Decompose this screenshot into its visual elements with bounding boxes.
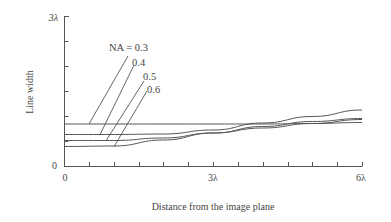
annotation-na-0-4: 0.4 bbox=[132, 57, 146, 68]
y-tick-label-zero: 0 bbox=[52, 160, 57, 171]
y-ticks bbox=[65, 42, 69, 142]
y-axis-title: Line width bbox=[24, 70, 35, 114]
x-tick-label-mid: 3λ bbox=[208, 172, 218, 183]
curves bbox=[64, 110, 362, 147]
curve-na-0-6 bbox=[64, 119, 362, 147]
annotation-na-0-6: 0.6 bbox=[147, 84, 160, 95]
leader-lines bbox=[89, 56, 147, 147]
line-width-chart: 3λ 0 0 3λ 6λ Distance from the image pla… bbox=[0, 0, 391, 222]
x-tick-label-zero: 0 bbox=[63, 172, 68, 183]
leader-na-0-6 bbox=[114, 91, 147, 147]
x-axis-title: Distance from the image plane bbox=[152, 201, 275, 212]
axes bbox=[64, 16, 362, 167]
y-tick-label-top: 3λ bbox=[48, 12, 59, 23]
x-tick-label-end: 6λ bbox=[356, 172, 366, 183]
annotation-na-0-3: NA = 0.3 bbox=[109, 42, 148, 53]
x-ticks bbox=[90, 162, 363, 167]
curve-na-0-4 bbox=[64, 110, 362, 135]
annotation-na-0-5: 0.5 bbox=[143, 71, 156, 82]
